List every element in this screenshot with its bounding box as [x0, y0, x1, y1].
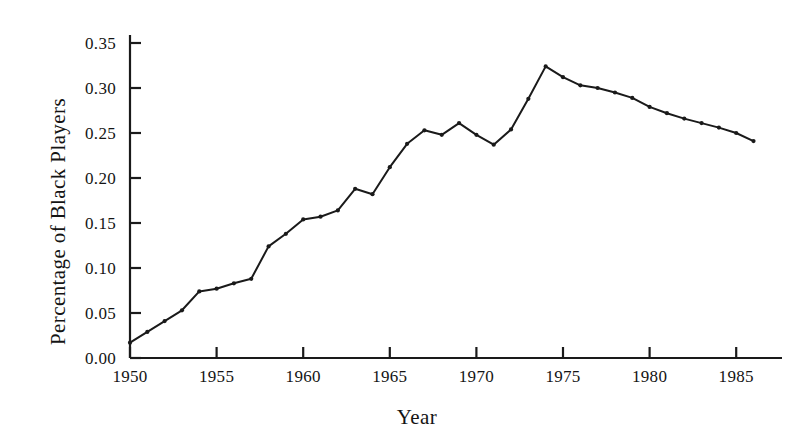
y-axis-tick-labels: 0.000.050.100.150.200.250.300.35	[85, 34, 116, 368]
x-axis-tick-labels: 19501955196019651970197519801985	[112, 367, 753, 386]
data-series-line	[130, 66, 754, 342]
data-point	[474, 133, 478, 137]
data-point	[370, 192, 374, 196]
y-tick-label: 0.25	[85, 124, 116, 143]
y-tick-label: 0.30	[85, 79, 116, 98]
data-point	[613, 90, 617, 94]
data-point	[596, 86, 600, 90]
y-tick-label: 0.20	[85, 169, 116, 188]
data-point	[665, 111, 669, 115]
y-tick-label: 0.10	[85, 259, 116, 278]
data-point	[526, 97, 530, 101]
data-point	[388, 165, 392, 169]
y-tick-label: 0.05	[85, 304, 116, 323]
line-chart-plot: 0.000.050.100.150.200.250.300.35 1950195…	[0, 0, 790, 445]
data-point	[266, 244, 270, 248]
data-point	[544, 64, 548, 68]
x-tick-label: 1985	[719, 367, 754, 386]
data-point	[492, 143, 496, 147]
x-tick-label: 1980	[632, 367, 667, 386]
y-axis-title: Percentage of Black Players	[46, 98, 71, 345]
data-series-markers	[128, 64, 756, 345]
axis-lines	[130, 35, 782, 358]
chart-figure: 0.000.050.100.150.200.250.300.35 1950195…	[0, 0, 790, 445]
x-tick-label: 1950	[112, 367, 147, 386]
data-point	[353, 187, 357, 191]
data-point	[734, 131, 738, 135]
data-point	[405, 142, 409, 146]
data-point	[440, 133, 444, 137]
x-tick-label: 1970	[459, 367, 494, 386]
x-axis-ticks	[130, 347, 736, 358]
data-point	[232, 281, 236, 285]
y-axis-ticks	[130, 43, 141, 358]
data-point	[249, 277, 253, 281]
data-point	[457, 121, 461, 125]
data-point	[509, 127, 513, 131]
data-point	[128, 341, 132, 345]
x-tick-label: 1955	[199, 367, 234, 386]
x-axis-title: Year	[22, 405, 790, 430]
data-point	[215, 287, 219, 291]
y-tick-label: 0.00	[85, 349, 116, 368]
y-tick-label: 0.35	[85, 34, 116, 53]
data-point	[163, 319, 167, 323]
data-point	[284, 232, 288, 236]
data-point	[682, 117, 686, 121]
data-point	[561, 75, 565, 79]
data-point	[630, 96, 634, 100]
data-point	[318, 215, 322, 219]
x-tick-label: 1965	[372, 367, 407, 386]
data-point	[422, 128, 426, 132]
data-point	[197, 289, 201, 293]
data-point	[699, 121, 703, 125]
data-point	[180, 308, 184, 312]
data-point	[648, 105, 652, 109]
data-point	[145, 330, 149, 334]
data-point	[578, 83, 582, 87]
data-point	[717, 126, 721, 130]
data-point	[301, 217, 305, 221]
data-point	[336, 208, 340, 212]
x-tick-label: 1960	[286, 367, 321, 386]
y-tick-label: 0.15	[85, 214, 116, 233]
x-tick-label: 1975	[545, 367, 580, 386]
data-point	[751, 139, 755, 143]
